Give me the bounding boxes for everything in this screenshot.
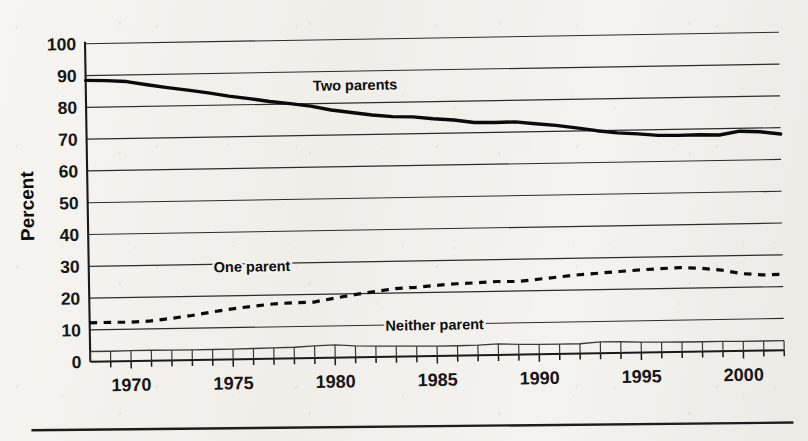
x-tick-label: 1980	[315, 371, 355, 392]
y-tick-label: 60	[59, 161, 79, 181]
y-tick-label: 70	[58, 129, 78, 149]
line-chart-svg: Percent 0102030405060708090100 197019751…	[0, 0, 808, 441]
x-tick-label: 1985	[417, 370, 457, 391]
x-axis-tick-labels: 1970197519801985199019952000	[111, 365, 764, 396]
series-two-parents	[86, 69, 781, 146]
x-tick-label: 1990	[520, 368, 560, 389]
y-tick-label: 10	[61, 320, 81, 340]
y-tick-label: 90	[57, 66, 77, 86]
x-tick-label: 1970	[111, 375, 151, 396]
annotation-neither-parent: Neither parent	[385, 316, 484, 334]
y-tick-label: 50	[59, 193, 79, 213]
x-tick-label: 1975	[213, 373, 253, 394]
y-tick-label: 40	[60, 225, 80, 245]
gridlines	[85, 32, 784, 330]
annotation-two-parents: Two parents	[313, 76, 398, 93]
x-tick-label: 1995	[622, 366, 662, 387]
annotation-one-parent: One parent	[214, 258, 291, 275]
y-tick-label: 100	[47, 34, 77, 54]
y-tick-label: 20	[61, 288, 81, 308]
x-tick-label: 2000	[724, 365, 764, 386]
y-axis-line	[85, 42, 90, 362]
y-tick-label: 80	[57, 98, 77, 118]
series-one-parent	[89, 266, 784, 323]
y-axis-tick-labels: 0102030405060708090100	[47, 34, 82, 372]
y-tick-label: 30	[60, 257, 80, 277]
chart-figure: Percent 0102030405060708090100 197019751…	[0, 0, 808, 441]
y-axis-title: Percent	[16, 171, 38, 242]
bottom-divider-rule	[31, 418, 793, 436]
y-tick-label: 0	[71, 352, 81, 372]
